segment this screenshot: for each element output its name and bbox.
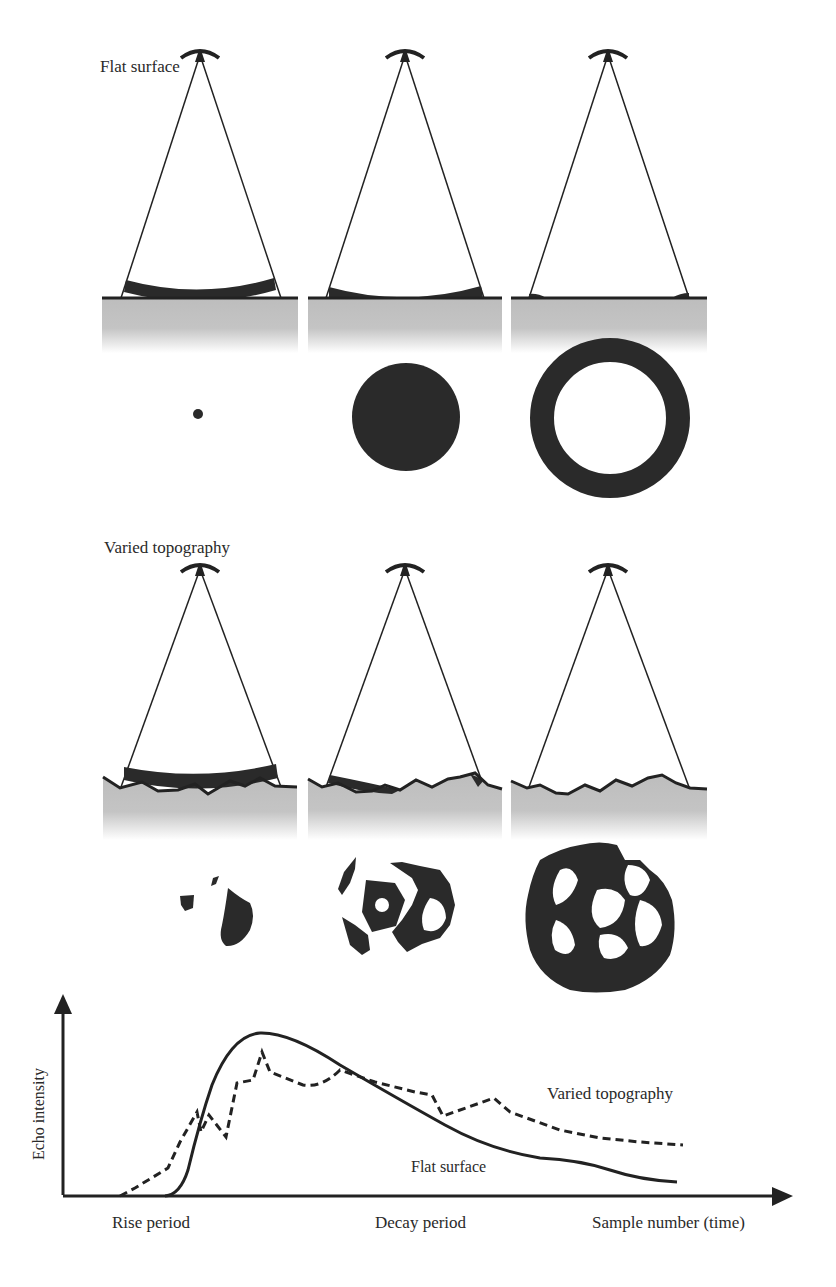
transducer-body: [603, 53, 613, 62]
beam-edge-left: [121, 572, 199, 787]
transducer-body: [400, 567, 410, 576]
beam-edge-left: [529, 572, 607, 787]
beam-edge-right: [201, 572, 281, 787]
beam-edge-right: [609, 58, 689, 298]
x-axis-label: Sample number (time): [592, 1213, 745, 1232]
y-axis-label: Echo intensity: [30, 1068, 48, 1160]
beam-edge-right: [406, 58, 484, 298]
flat-panel-3: [511, 51, 707, 353]
beam-edge-left: [326, 58, 404, 298]
rise-period-label: Rise period: [112, 1213, 190, 1232]
footprint-annulus: [542, 350, 678, 486]
y-axis-arrowhead: [54, 994, 72, 1014]
footprint-hole: [375, 898, 389, 912]
varied-topography-curve: [120, 1052, 683, 1196]
footprint-filled-disc: [352, 363, 460, 471]
beam-edge-left: [326, 572, 404, 787]
transducer-body: [400, 53, 410, 62]
beam-edge-right: [201, 58, 281, 298]
flat-panel-2: [308, 51, 502, 353]
footprint-patchy-small: [180, 876, 253, 946]
echo-intensity-graph: Echo intensity Rise period Decay period …: [30, 994, 793, 1232]
legend-flat-surface: Flat surface: [411, 1158, 486, 1175]
flat-panel-1: [102, 51, 298, 353]
varied-panel-3: [511, 565, 707, 840]
footprint-patchy-large: [525, 843, 674, 993]
seabed: [102, 298, 298, 353]
transducer-body: [195, 567, 205, 576]
transducer-body: [603, 567, 613, 576]
beam-edge-right: [609, 572, 689, 787]
footprint-small-dot: [193, 409, 203, 419]
varied-panel-2: [308, 565, 502, 840]
beam-edge-left: [529, 58, 607, 298]
transducer-body: [195, 53, 205, 62]
echo-diagram: Flat surface Varied topography: [0, 0, 836, 1287]
pulse-wavefront: [329, 286, 483, 298]
beam-edge-right: [406, 572, 484, 787]
x-axis-arrowhead: [772, 1187, 793, 1206]
decay-period-label: Decay period: [375, 1213, 467, 1232]
legend-varied-topography: Varied topography: [547, 1084, 674, 1103]
beam-edge-left: [121, 58, 199, 298]
seabed: [308, 298, 502, 353]
flat-surface-title: Flat surface: [100, 57, 180, 76]
varied-panel-1: [103, 565, 297, 840]
varied-topography-title: Varied topography: [104, 538, 231, 557]
